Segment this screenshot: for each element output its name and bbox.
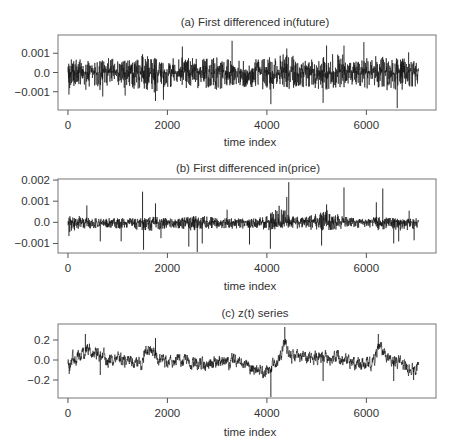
panel-a-title: (a) First differenced in(future) [181,16,330,28]
panel-a-x-tick-label: 0 [65,119,71,131]
panel-a-x-tick-label: 2000 [155,119,181,131]
panel-a-y-axis: 0.0010.0−0.001 [15,47,59,97]
panel-b-x-tick-label: 6000 [354,262,380,274]
panel-c: (c) z(t) series 0.20.0−0.2 0200040006000… [27,307,436,438]
panel-b-series [68,182,419,252]
panel-b-x-tick-label: 4000 [254,262,280,274]
panel-c-x-axis: 0200040006000 [65,398,379,419]
panel-c-x-tick-label: 0 [65,407,71,419]
panel-a-x-tick-label: 4000 [254,119,280,131]
panel-a-y-tick-label: 0.001 [21,47,50,59]
panel-b-y-tick-label: 0.001 [21,195,50,207]
panel-b-x-label: time index [224,280,277,292]
panel-a-x-label: time index [224,136,277,148]
panel-c-y-axis: 0.20.0−0.2 [27,334,58,386]
panel-a-series [68,41,419,108]
panel-b-y-tick-label: 0.002 [21,174,50,186]
panel-c-x-tick-label: 6000 [354,407,380,419]
panel-b-y-axis: 0.0020.0010.0−0.001 [15,174,59,249]
panel-b-y-tick-label: −0.001 [15,237,51,249]
panel-b-x-axis: 0200040006000 [65,253,379,274]
figure: (a) First differenced in(future) 0.0010.… [0,0,453,446]
panel-a: (a) First differenced in(future) 0.0010.… [15,16,437,148]
panel-b-title: (b) First differenced in(price) [176,162,320,174]
panel-b-plot-frame [58,179,436,253]
panel-c-series [68,327,419,397]
panel-b-x-tick-label: 0 [65,262,71,274]
panel-c-x-tick-label: 4000 [254,407,280,419]
panel-b-series-line [68,206,419,232]
panel-b-y-tick-label: 0.0 [34,216,50,228]
panel-c-y-tick-label: −0.2 [27,374,50,386]
panel-c-series-line [68,339,419,378]
panel-a-x-axis: 0200040006000 [65,110,379,131]
panel-a-y-tick-label: −0.001 [15,86,51,98]
panel-c-title: (c) z(t) series [221,307,288,319]
panel-c-x-tick-label: 2000 [155,407,181,419]
panel-c-x-label: time index [224,426,277,438]
panel-c-y-tick-label: 0.2 [34,334,50,346]
panel-b-x-tick-label: 2000 [155,262,181,274]
panel-b: (b) First differenced in(price) 0.0020.0… [15,162,437,292]
panel-a-series-line [68,54,419,92]
panel-a-y-tick-label: 0.0 [34,67,50,79]
panel-c-y-tick-label: 0.0 [34,354,50,366]
panel-c-plot-frame [58,324,436,398]
panel-a-x-tick-label: 6000 [354,119,380,131]
